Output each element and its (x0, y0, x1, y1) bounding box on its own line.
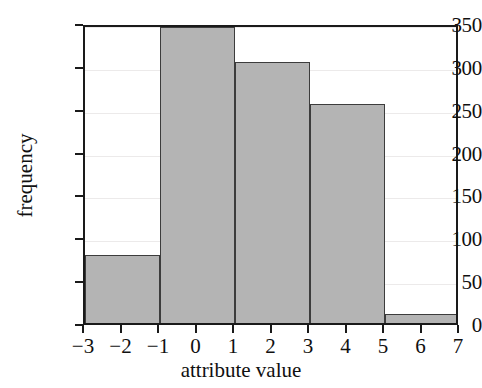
y-axis-tick (75, 110, 83, 112)
x-axis-tick-label: 4 (326, 336, 366, 357)
y-axis-title: frequency (15, 76, 36, 276)
x-axis-tick (382, 325, 384, 333)
y-axis-tick-label: 150 (420, 186, 482, 207)
y-axis-tick-label: 250 (420, 101, 482, 122)
x-axis-tick (345, 325, 347, 333)
y-axis-tick-label: 200 (420, 144, 482, 165)
x-axis-tick (420, 325, 422, 333)
x-axis-tick-label: 1 (213, 336, 253, 357)
histogram-bar (160, 27, 235, 323)
plot-area (83, 25, 458, 325)
x-axis-tick-label: −3 (63, 336, 103, 357)
y-axis-tick-label: 300 (420, 58, 482, 79)
histogram-figure: 050100150200250300350 −3−2−101234567 fre… (0, 0, 482, 388)
x-axis-tick (157, 325, 159, 333)
x-axis-tick (232, 325, 234, 333)
histogram-bar (235, 62, 310, 323)
y-axis-tick-label: 0 (420, 315, 482, 336)
x-axis-tick-label: 5 (363, 336, 403, 357)
y-axis-tick (75, 153, 83, 155)
x-axis-tick (82, 325, 84, 333)
x-axis-title: attribute value (0, 360, 482, 381)
y-axis-tick (75, 24, 83, 26)
y-axis-tick (75, 238, 83, 240)
histogram-bar (85, 255, 160, 323)
y-axis-tick (75, 281, 83, 283)
x-axis-tick-label: −2 (101, 336, 141, 357)
histogram-bar (310, 104, 385, 323)
x-axis-tick-label: 7 (438, 336, 478, 357)
x-axis-tick-label: 2 (251, 336, 291, 357)
x-axis-tick (270, 325, 272, 333)
x-axis-tick-label: −1 (138, 336, 178, 357)
y-axis-tick-label: 100 (420, 229, 482, 250)
x-axis-tick-label: 6 (401, 336, 441, 357)
x-axis-tick (457, 325, 459, 333)
x-axis-tick-label: 3 (288, 336, 328, 357)
y-axis-tick-label: 350 (420, 15, 482, 36)
x-axis-tick-label: 0 (176, 336, 216, 357)
y-axis-tick-label: 50 (420, 272, 482, 293)
x-axis-tick (195, 325, 197, 333)
gridline (85, 27, 456, 28)
x-axis-tick (120, 325, 122, 333)
x-axis-tick (307, 325, 309, 333)
y-axis-tick (75, 195, 83, 197)
y-axis-tick (75, 67, 83, 69)
